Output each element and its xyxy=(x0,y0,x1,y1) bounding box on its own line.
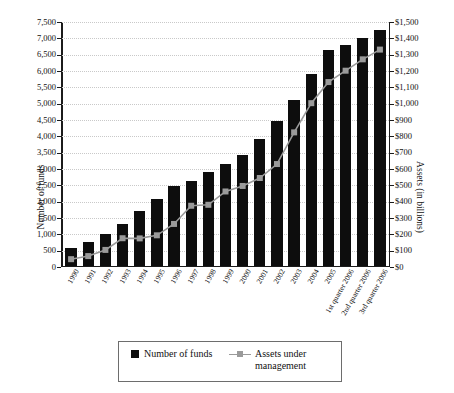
x-axis-tick-label: 1997 xyxy=(187,268,202,285)
bar xyxy=(254,139,265,266)
x-axis-tick-label: 2004 xyxy=(307,268,322,285)
y-axis-right-tick xyxy=(390,55,394,56)
y-axis-right-tick xyxy=(390,104,394,105)
x-axis-tick-label: 2005 xyxy=(324,268,339,285)
y-axis-right-line xyxy=(389,22,391,267)
y-axis-right-tick-label: $1,500 xyxy=(395,18,418,27)
y-axis-right-tick-label: $1,200 xyxy=(395,67,418,76)
bars-group xyxy=(63,22,389,266)
bar xyxy=(168,186,179,266)
y-axis-left-tick xyxy=(57,55,61,56)
y-axis-left-tick-label: 4,500 xyxy=(37,116,56,125)
y-axis-right-tick-label: $1,100 xyxy=(395,83,418,92)
y-axis-right-tick-label: $1,300 xyxy=(395,50,418,59)
y-axis-right-tick xyxy=(390,136,394,137)
y-axis-right-tick-label: $300 xyxy=(395,214,412,223)
bar xyxy=(288,100,299,266)
x-axis-tick-label: 2001 xyxy=(255,268,270,285)
y-axis-left-tick-label: 1,000 xyxy=(37,230,56,239)
y-axis-right-tick xyxy=(390,218,394,219)
plot-area: 0$0500$1001,000$2001,500$3002,000$4002,5… xyxy=(61,22,390,267)
chart-figure: Number of funds Assets (in billions) 0$0… xyxy=(0,0,454,393)
y-axis-left-tick-label: 5,000 xyxy=(37,99,56,108)
y-axis-left-tick-label: 7,000 xyxy=(37,34,56,43)
y-axis-right-tick xyxy=(390,202,394,203)
y-axis-right-tick-label: $800 xyxy=(395,132,412,141)
bar xyxy=(306,74,317,266)
x-axis-tick-label: 1990 xyxy=(66,268,81,285)
y-axis-right-tick xyxy=(390,120,394,121)
y-axis-right-tick-label: $1,000 xyxy=(395,99,418,108)
y-axis-left-tick xyxy=(57,87,61,88)
y-axis-right-tick-label: $0 xyxy=(395,263,404,272)
y-axis-left-tick-label: 5,500 xyxy=(37,83,56,92)
y-axis-left-tick-label: 2,500 xyxy=(37,181,56,190)
y-axis-right-tick-label: $100 xyxy=(395,246,412,255)
y-axis-left-tick xyxy=(57,136,61,137)
bar xyxy=(271,121,282,265)
bar xyxy=(186,181,197,265)
y-axis-right-tick xyxy=(390,38,394,39)
legend-label-assets-under-management: Assets under management xyxy=(255,348,337,371)
bar xyxy=(100,234,111,265)
y-axis-left-tick xyxy=(57,38,61,39)
y-axis-right-tick xyxy=(390,185,394,186)
y-axis-left-tick-label: 7,500 xyxy=(37,18,56,27)
y-axis-left-tick xyxy=(57,234,61,235)
legend-line-marker-icon xyxy=(229,349,251,359)
bar xyxy=(220,164,231,266)
x-axis-tick-label: 2002 xyxy=(272,268,287,285)
y-axis-left-tick xyxy=(57,185,61,186)
bar xyxy=(323,50,334,266)
y-axis-left-tick-label: 1,500 xyxy=(37,214,56,223)
y-axis-left-tick-label: 4,000 xyxy=(37,132,56,141)
y-axis-left-tick-label: 500 xyxy=(43,246,56,255)
y-axis-right-tick xyxy=(390,22,394,23)
bar xyxy=(117,224,128,266)
y-axis-right-tick xyxy=(390,71,394,72)
y-axis-right-tick xyxy=(390,251,394,252)
y-axis-left-tick xyxy=(57,218,61,219)
y-axis-left-tick-label: 3,500 xyxy=(37,148,56,157)
y-axis-right-tick-label: $500 xyxy=(395,181,412,190)
chart-legend: Number of funds Assets under management xyxy=(118,341,342,382)
x-axis-tick-label: 1998 xyxy=(204,268,219,285)
y-axis-left-tick xyxy=(57,120,61,121)
x-axis-tick-label: 2003 xyxy=(290,268,305,285)
legend-item-number-of-funds: Number of funds xyxy=(131,348,221,360)
x-axis-labels-group: 1990199119921993199419951996199719981999… xyxy=(61,268,390,338)
x-axis-tick-label: 1996 xyxy=(169,268,184,285)
y-axis-right-tick xyxy=(390,87,394,88)
x-axis-tick-label: 1992 xyxy=(101,268,116,285)
bar xyxy=(151,199,162,266)
y-axis-left-tick-label: 3,000 xyxy=(37,165,56,174)
y-axis-left-tick xyxy=(57,104,61,105)
x-axis-tick-label: 1994 xyxy=(135,268,150,285)
y-axis-right-tick-label: $900 xyxy=(395,116,412,125)
y-axis-right-tick-label: $700 xyxy=(395,148,412,157)
bar xyxy=(357,38,368,265)
bar xyxy=(374,30,385,265)
legend-square-icon xyxy=(131,350,139,358)
bar xyxy=(83,242,94,266)
x-axis-tick-label: 1993 xyxy=(118,268,133,285)
y-axis-right-tick xyxy=(390,234,394,235)
y-axis-left-tick xyxy=(57,22,61,23)
y-axis-left-tick xyxy=(57,202,61,203)
legend-label-number-of-funds: Number of funds xyxy=(144,348,212,360)
y-axis-right-title: Assets (in billions) xyxy=(415,161,425,233)
y-axis-right-tick xyxy=(390,169,394,170)
y-axis-left-tick-label: 6,500 xyxy=(37,50,56,59)
y-axis-left-tick xyxy=(57,153,61,154)
x-axis-tick-label: 2000 xyxy=(238,268,253,285)
y-axis-right-tick-label: $600 xyxy=(395,165,412,174)
x-axis-tick-label: 1995 xyxy=(152,268,167,285)
y-axis-right-tick xyxy=(390,267,394,268)
y-axis-left-tick xyxy=(57,169,61,170)
y-axis-left-tick xyxy=(57,71,61,72)
x-axis-line xyxy=(61,266,390,268)
y-axis-right-tick xyxy=(390,153,394,154)
bar xyxy=(340,45,351,266)
y-axis-right-tick-label: $1,400 xyxy=(395,34,418,43)
y-axis-left-tick-label: 6,000 xyxy=(37,67,56,76)
